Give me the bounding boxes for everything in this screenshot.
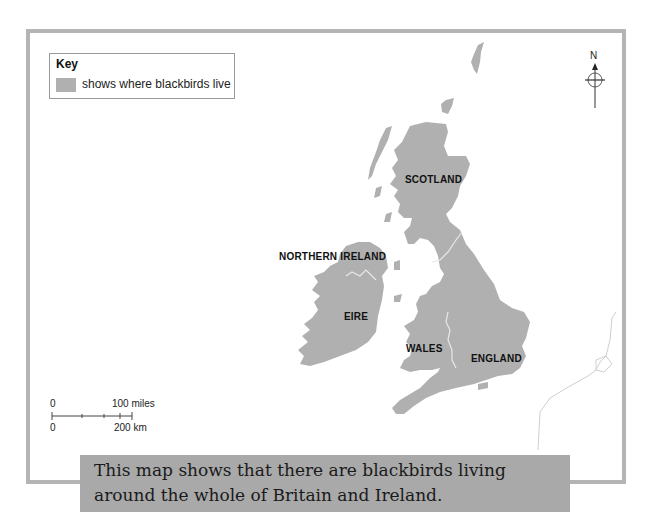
key-swatch [56, 78, 76, 92]
map-key: Key shows where blackbirds live [49, 53, 235, 99]
orkney-islands [441, 98, 454, 114]
label-england: ENGLAND [471, 353, 522, 364]
scale-line [48, 412, 168, 422]
scale-km-end: 200 km [114, 422, 147, 433]
scale-miles-start: 0 [50, 398, 56, 409]
label-northern-ireland: NORTHERN IRELAND [279, 251, 386, 262]
france-coastline [538, 312, 616, 450]
label-scotland: SCOTLAND [405, 174, 462, 185]
outer-hebrides [368, 126, 392, 180]
label-wales: WALES [406, 343, 443, 354]
key-title: Key [56, 57, 78, 71]
scale-bar: 0 100 miles 0 200 km [48, 398, 168, 438]
compass-rose-icon [580, 50, 610, 110]
caption-box: This map shows that there are blackbirds… [80, 455, 570, 512]
scale-miles-end: 100 miles [112, 398, 155, 409]
key-label: shows where blackbirds live [82, 77, 231, 91]
scale-km-start: 0 [50, 422, 56, 433]
compass: N [580, 50, 610, 110]
label-eire: EIRE [344, 311, 368, 322]
shetland-islands [471, 42, 484, 74]
great-britain-land [390, 122, 530, 414]
